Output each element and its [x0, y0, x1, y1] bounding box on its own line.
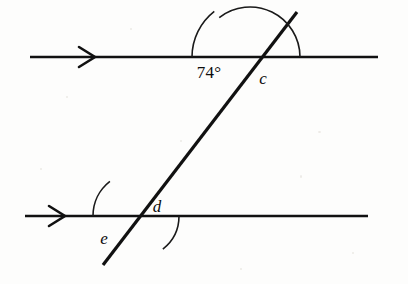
scan-speck — [40, 168, 42, 170]
scan-speck — [240, 268, 242, 270]
scan-speck — [352, 252, 354, 254]
angle-arc-74 — [192, 11, 214, 57]
angle-arc-e — [93, 181, 110, 216]
diagram-canvas: 74° c d e — [0, 0, 408, 284]
angle-arc-d — [163, 216, 179, 249]
angle-arc-c — [219, 7, 300, 57]
angle-label-d: d — [153, 198, 162, 215]
scan-speck — [318, 131, 321, 133]
angle-label-74: 74° — [197, 64, 222, 81]
scan-speck — [180, 140, 182, 142]
angle-label-c: c — [259, 70, 267, 87]
angle-label-e: e — [100, 230, 108, 247]
scan-speck — [66, 96, 68, 98]
transversal-line — [103, 12, 297, 265]
scan-speck — [130, 28, 132, 30]
geometry-figure — [0, 0, 408, 284]
scan-speck — [300, 175, 302, 178]
